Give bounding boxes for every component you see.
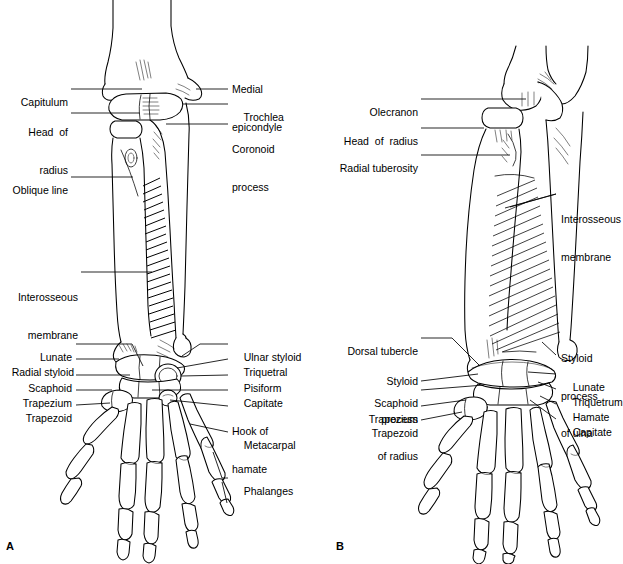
panel-a-illustration	[61, 0, 234, 563]
panel-letter-b: B	[336, 540, 344, 552]
label-coronoid-process-line2: process	[232, 181, 312, 194]
label-coronoid-process-line1: Coronoid	[232, 143, 312, 156]
label-head-of-radius-a-line1: Head of	[0, 126, 68, 139]
label-radial-tuberosity: Radial tuberosity	[318, 149, 418, 187]
label-oblique-line: Oblique line	[0, 171, 68, 209]
label-interosseous-membrane-b-line2: membrane	[561, 251, 623, 264]
label-styloid-process-of-ulna-line1: Styloid	[561, 352, 623, 365]
label-capitate-b-text: Capitate	[573, 426, 612, 438]
label-interosseous-membrane-b: Interosseous membrane	[561, 188, 623, 288]
label-phalanges-text: Phalanges	[244, 485, 294, 497]
label-oblique-line-text: Oblique line	[13, 184, 68, 196]
label-trapezoid-b: Trapezoid	[318, 414, 418, 452]
label-capitate-b: Capitate	[561, 413, 623, 451]
label-interosseous-membrane-a-line1: Interosseous	[0, 291, 78, 304]
label-phalanges: Phalanges	[232, 472, 322, 510]
panel-letter-a: A	[6, 540, 14, 552]
label-medial-epicondyle-line1: Medial	[232, 83, 312, 96]
label-interosseous-membrane-b-line1: Interosseous	[561, 213, 623, 226]
forearm-hand-bones-figure: Capitulum Head of radius Oblique line In…	[0, 0, 623, 564]
label-styloid-process-of-radius-line3: of radius	[318, 450, 418, 463]
label-radial-tuberosity-text: Radial tuberosity	[340, 162, 418, 174]
label-metacarpal-text: Metacarpal	[244, 439, 296, 451]
label-trapezoid-a-text: Trapezoid	[26, 412, 72, 424]
panel-b-illustration	[419, 46, 600, 564]
label-trapezoid-b-text: Trapezoid	[372, 427, 418, 439]
label-head-of-radius-b-text: Head of radius	[344, 135, 418, 147]
label-olecranon-text: Olecranon	[370, 106, 418, 118]
label-metacarpal: Metacarpal	[232, 426, 322, 464]
label-coronoid-process: Coronoid process	[232, 118, 312, 218]
label-trapezoid-a: Trapezoid	[0, 399, 72, 437]
